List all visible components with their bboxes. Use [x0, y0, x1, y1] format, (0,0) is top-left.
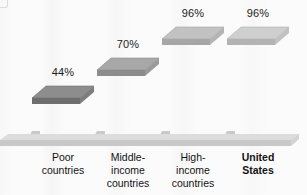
bar-value-label-poor-countries: 44% — [32, 66, 94, 78]
category-label-line: countries — [91, 177, 165, 190]
category-label-line: countries — [156, 177, 230, 190]
chart-canvas: 44% 70% 96% 96% — [0, 0, 307, 195]
bar-united-states[interactable] — [227, 23, 289, 47]
category-label-line: High- — [156, 151, 230, 164]
category-label-middle-income-countries: Middle- income countries — [91, 151, 165, 190]
category-label-line: countries — [26, 164, 100, 177]
category-label-line: Poor — [26, 151, 100, 164]
page-corner-mark — [0, 0, 8, 8]
bar-value-label-middle-income-countries: 70% — [97, 38, 159, 50]
category-label-line: States — [221, 164, 295, 177]
bar-value-label-united-states: 96% — [227, 7, 289, 19]
chart-base-strip — [0, 126, 307, 148]
category-label-line: income — [91, 164, 165, 177]
category-label-united-states: United States — [221, 151, 295, 177]
bar-high-income-countries[interactable] — [162, 23, 224, 47]
category-label-high-income-countries: High- income countries — [156, 151, 230, 190]
category-label-line: income — [156, 164, 230, 177]
bar-middle-income-countries[interactable] — [97, 54, 159, 78]
category-label-line: United — [221, 151, 295, 164]
category-label-poor-countries: Poor countries — [26, 151, 100, 177]
category-label-line: Middle- — [91, 151, 165, 164]
bar-value-label-high-income-countries: 96% — [162, 7, 224, 19]
bar-poor-countries[interactable] — [32, 82, 94, 106]
